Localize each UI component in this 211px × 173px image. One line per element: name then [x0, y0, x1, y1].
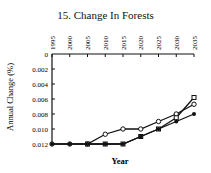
y-tick-label: 0.006	[32, 96, 48, 104]
x-tick-label: 2010	[102, 36, 110, 51]
open-circle-marker	[103, 132, 107, 136]
x-tick-label: 2035	[191, 36, 199, 51]
x-tick-label: 2015	[120, 36, 128, 51]
y-tick-label: 0.008	[32, 111, 48, 119]
filled-circle-marker	[86, 142, 90, 146]
series-line-1	[52, 104, 194, 144]
y-tick-label: 0.004	[32, 81, 48, 89]
x-tick-label: 2025	[155, 36, 163, 51]
y-axis-label: Annual Change (%)	[5, 63, 15, 131]
y-tick-label: 0	[45, 51, 49, 59]
filled-circle-marker	[174, 120, 178, 124]
open-circle-marker	[139, 127, 143, 131]
open-circle-marker	[156, 119, 160, 123]
x-tick-label: 1995	[49, 36, 57, 51]
filled-circle-marker	[121, 142, 125, 146]
x-tick-label: 2030	[173, 36, 181, 51]
filled-circle-marker	[157, 127, 161, 131]
chart-container: 15. Change In Forests 199520002005201020…	[0, 0, 211, 173]
x-tick-label: 2005	[84, 36, 92, 51]
y-tick-label: 0.012	[32, 141, 48, 149]
open-circle-marker	[192, 102, 196, 106]
x-tick-label: 2000	[66, 36, 74, 51]
filled-circle-marker	[192, 112, 196, 116]
square-marker	[174, 116, 178, 120]
line-chart: 19952000200520102015202020252030203500.0…	[0, 0, 211, 173]
y-tick-label: 0.010	[32, 126, 48, 134]
y-tick-label: 0.002	[32, 66, 48, 74]
filled-circle-marker	[139, 135, 143, 139]
filled-circle-marker	[68, 142, 72, 146]
x-tick-label: 2020	[137, 36, 145, 51]
filled-circle-marker	[103, 142, 107, 146]
square-marker	[192, 96, 196, 100]
filled-circle-marker	[50, 142, 54, 146]
x-axis-label: Year	[112, 156, 129, 166]
open-circle-marker	[121, 127, 125, 131]
